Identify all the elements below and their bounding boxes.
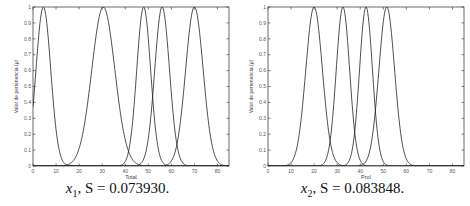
x-tick-label: 20 xyxy=(311,168,317,174)
y-tick-label: 0.9 xyxy=(24,20,31,26)
y-tick-label: 0.1 xyxy=(24,147,31,153)
x-tick-label: 0 xyxy=(267,168,270,174)
x-tick-label: 80 xyxy=(450,168,456,174)
y-tick-label: 0.8 xyxy=(24,36,31,42)
x-tick-label: 30 xyxy=(99,168,105,174)
x-tick-label: 60 xyxy=(404,168,410,174)
y-tick-label: 1 xyxy=(263,4,266,10)
x-tick-label: 0 xyxy=(32,168,35,174)
caption-x2: x2, S = 0.083848. xyxy=(235,180,470,199)
y-tick-label: 0.9 xyxy=(259,20,266,26)
y-tick-label: 0.6 xyxy=(24,67,31,73)
membership-curve-mf2 xyxy=(268,7,464,166)
membership-curve-mf5 xyxy=(33,7,229,166)
y-tick-label: 0.3 xyxy=(259,115,266,121)
y-axis-label: Valor de pertenencia (μ) xyxy=(13,59,19,113)
x-tick-label: 50 xyxy=(381,168,387,174)
membership-curve-mf4 xyxy=(268,7,464,166)
y-tick-label: 0.5 xyxy=(24,83,31,89)
plot-area xyxy=(268,7,464,166)
x-tick-label: 70 xyxy=(427,168,433,174)
x-tick-label: 80 xyxy=(215,168,221,174)
y-tick-label: 1 xyxy=(28,4,31,10)
membership-chart-x2: 0102030405060708000.10.20.30.40.50.60.70… xyxy=(235,0,470,180)
caption-x1: x1, S = 0.073930. xyxy=(0,180,235,199)
y-tick-label: 0.7 xyxy=(24,51,31,57)
y-tick-label: 0.8 xyxy=(259,36,266,42)
x-tick-label: 50 xyxy=(146,168,152,174)
membership-chart-x1: 0102030405060708000.10.20.30.40.50.60.70… xyxy=(0,0,235,180)
y-tick-label: 0.1 xyxy=(259,147,266,153)
y-tick-label: 0.5 xyxy=(259,83,266,89)
x-tick-label: 70 xyxy=(192,168,198,174)
membership-curve-mf1 xyxy=(268,7,464,166)
y-tick-label: 0.7 xyxy=(259,51,266,57)
y-tick-label: 0.3 xyxy=(24,115,31,121)
y-tick-label: 0 xyxy=(263,163,266,169)
y-tick-label: 0.4 xyxy=(24,99,31,105)
x-tick-label: 10 xyxy=(288,168,294,174)
x-tick-label: 20 xyxy=(76,168,82,174)
chart-panel-x1: 0102030405060708000.10.20.30.40.50.60.70… xyxy=(0,0,235,206)
y-tick-label: 0.2 xyxy=(24,131,31,137)
chart-panel-x2: 0102030405060708000.10.20.30.40.50.60.70… xyxy=(235,0,470,206)
y-axis-label: Valor de pertenencia (μ) xyxy=(248,59,254,113)
membership-curve-mf3 xyxy=(268,7,464,166)
y-tick-label: 0.2 xyxy=(259,131,266,137)
x-tick-label: 10 xyxy=(53,168,59,174)
x-tick-label: 60 xyxy=(169,168,175,174)
y-tick-label: 0.4 xyxy=(259,99,266,105)
y-tick-label: 0 xyxy=(28,163,31,169)
y-tick-label: 0.6 xyxy=(259,67,266,73)
x-tick-label: 30 xyxy=(334,168,340,174)
